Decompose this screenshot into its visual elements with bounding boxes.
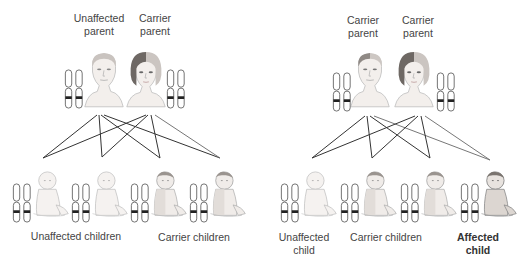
label-line: child xyxy=(448,244,508,257)
child-2-chromosomes-icon xyxy=(340,183,360,223)
label-line: Affected xyxy=(448,231,508,244)
unaffected-child-label: Unaffected child xyxy=(274,231,334,257)
carrier-children-label: Carrier children xyxy=(348,231,424,244)
affected-child-label: Affected child xyxy=(448,231,508,257)
inheritance-lines xyxy=(0,0,264,267)
unaffected-child-icon xyxy=(89,167,129,222)
carrier-child-icon xyxy=(358,167,398,222)
affected-child-icon xyxy=(478,167,518,222)
label-line: child xyxy=(274,244,334,257)
carrier-children-label: Carrier children xyxy=(156,231,232,244)
right-panel-carrier-x-carrier: Carrier parent Carrier parent Unaffected… xyxy=(264,0,528,267)
child-1-chromosomes-icon xyxy=(12,183,32,223)
left-panel-unaffected-x-carrier: Unaffected parent Carrier parent Unaffec… xyxy=(0,0,264,267)
child-4-chromosomes-icon xyxy=(189,183,209,223)
child-3-chromosomes-icon xyxy=(130,183,150,223)
carrier-child-icon xyxy=(148,167,188,222)
carrier-child-icon xyxy=(418,167,458,222)
carrier-child-icon xyxy=(207,167,247,222)
child-3-chromosomes-icon xyxy=(400,183,420,223)
unaffected-child-icon xyxy=(298,167,338,222)
inheritance-lines xyxy=(264,0,528,267)
unaffected-children-label: Unaffected children xyxy=(28,230,124,243)
child-1-chromosomes-icon xyxy=(280,183,300,223)
child-4-chromosomes-icon xyxy=(460,183,480,223)
label-line: Unaffected xyxy=(274,231,334,244)
unaffected-child-icon xyxy=(30,167,70,222)
child-2-chromosomes-icon xyxy=(71,183,91,223)
